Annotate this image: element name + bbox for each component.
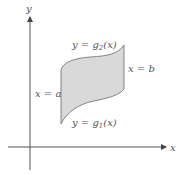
shaded-region [61,45,124,124]
region-diagram: x y y = g2(x) y = g1(x) x = a x = b [0,0,182,175]
left-bound-label: x = a [35,88,61,99]
x-axis-label: x [170,142,176,153]
bottom-curve-label: y = g1(x) [71,117,117,130]
top-curve-label: y = g2(x) [71,39,117,52]
y-axis-label: y [25,3,32,14]
right-bound-label: x = b [128,63,155,74]
